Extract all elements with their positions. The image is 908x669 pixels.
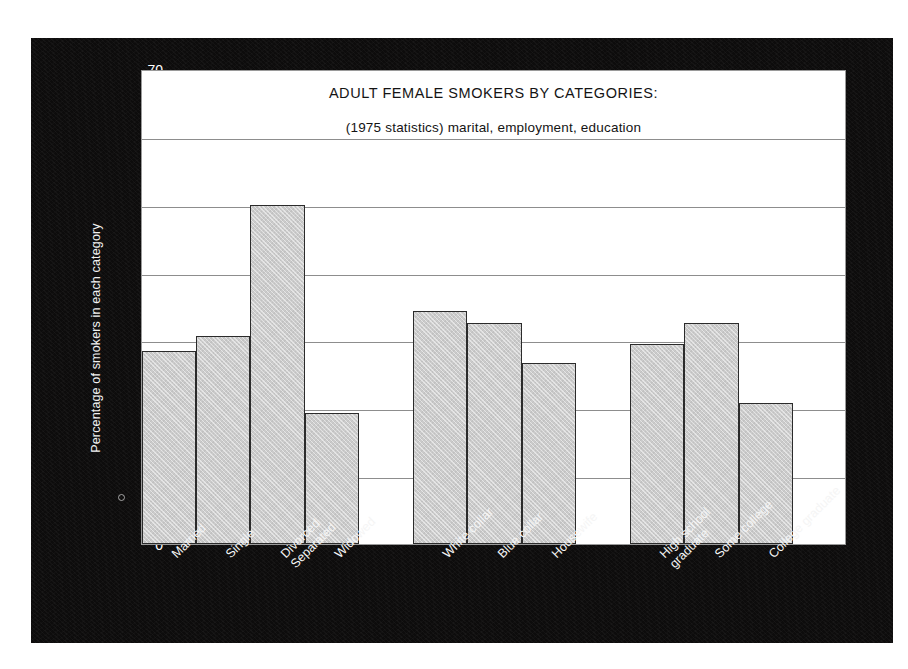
bars-layer bbox=[142, 71, 845, 544]
plot-area: ADULT FEMALE SMOKERS BY CATEGORIES: (197… bbox=[141, 70, 846, 545]
bar bbox=[630, 344, 684, 544]
bar bbox=[250, 205, 304, 544]
chart-panel: Percentage of smokers in each category 7… bbox=[31, 38, 893, 643]
x-axis-tick-labels: MarriedSingleDivorcedSeparatedWidowedWhi… bbox=[141, 545, 846, 643]
bar bbox=[684, 323, 738, 544]
bar bbox=[413, 311, 467, 544]
bar bbox=[142, 351, 196, 544]
scan-artifact-speck bbox=[118, 494, 125, 501]
bar bbox=[467, 323, 521, 544]
bar bbox=[196, 336, 250, 544]
